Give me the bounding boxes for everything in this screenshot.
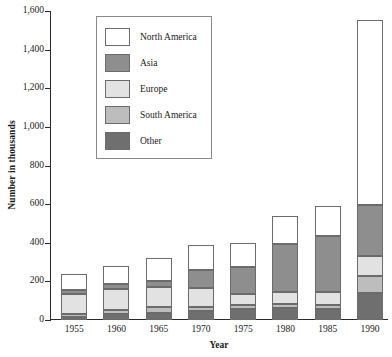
y-tick-mark [45, 320, 51, 321]
bar-segment [230, 309, 256, 320]
bar-segment [230, 305, 256, 310]
x-tick-label: 1990 [360, 324, 379, 334]
legend-swatch [105, 132, 130, 150]
bar-segment [315, 292, 341, 305]
bar-segment [315, 236, 341, 292]
y-tick-label: 400 [0, 238, 44, 248]
bar-segment [272, 244, 298, 292]
bar-segment [61, 290, 87, 294]
bar-segment [61, 294, 87, 314]
bar-segment [146, 281, 172, 287]
legend-label: South America [140, 110, 197, 120]
legend-label: Other [140, 136, 162, 146]
bar-segment [357, 20, 383, 205]
bar-segment [315, 305, 341, 310]
bar-segment [315, 309, 341, 320]
bar-segment [61, 314, 87, 317]
bar-segment [188, 288, 214, 307]
x-tick-label: 1975 [234, 324, 253, 334]
x-tick-label: 1985 [318, 324, 337, 334]
bar-segment [230, 267, 256, 294]
bar-segment [315, 206, 341, 236]
y-tick-label: 1,600 [0, 6, 44, 16]
x-axis-title: Year [50, 340, 388, 350]
legend-label: Europe [140, 84, 167, 94]
bar-segment [103, 284, 129, 289]
legend-item: Asia [97, 50, 211, 76]
bar-segment [146, 307, 172, 313]
bar-segment [188, 245, 214, 270]
bar-group [315, 206, 341, 320]
x-tick-label: 1955 [65, 324, 84, 334]
legend-item: North America [97, 24, 211, 50]
bar-group [272, 216, 298, 320]
y-tick-label: 800 [0, 161, 44, 171]
bar-group [357, 20, 383, 320]
legend-item: Other [97, 128, 211, 154]
x-tick-label: 1970 [191, 324, 210, 334]
x-tick-label: 1960 [107, 324, 126, 334]
y-tick-label: 1,000 [0, 122, 44, 132]
chart-legend: North AmericaAsiaEuropeSouth AmericaOthe… [96, 16, 212, 159]
bar-segment [146, 313, 172, 320]
legend-label: Asia [140, 58, 157, 68]
bar-segment [188, 270, 214, 288]
bar-segment [357, 256, 383, 275]
bar-group [103, 266, 129, 320]
bar-segment [272, 308, 298, 320]
legend-item: South America [97, 102, 211, 128]
bar-segment [272, 304, 298, 309]
legend-label: North America [140, 32, 197, 42]
bar-segment [146, 258, 172, 281]
bar-segment [103, 310, 129, 314]
y-tick-label: 1,400 [0, 45, 44, 55]
y-tick-label: 600 [0, 199, 44, 209]
y-tick-label: 200 [0, 277, 44, 287]
bar-segment [61, 274, 87, 290]
bar-segment [272, 292, 298, 304]
legend-swatch [105, 80, 130, 98]
bar-group [188, 245, 214, 320]
legend-swatch [105, 106, 130, 124]
x-tick-label: 1965 [149, 324, 168, 334]
bar-group [230, 243, 256, 320]
stacked-bar-chart: Number in thousands 02004006008001,0001,… [0, 0, 392, 357]
y-tick-label: 1,200 [0, 84, 44, 94]
legend-swatch [105, 54, 130, 72]
bar-segment [357, 276, 383, 293]
bar-segment [357, 205, 383, 256]
bar-segment [188, 307, 214, 311]
x-tick-label: 1980 [276, 324, 295, 334]
bar-segment [230, 294, 256, 305]
bar-segment [230, 243, 256, 267]
bar-group [146, 258, 172, 320]
bar-segment [103, 289, 129, 310]
legend-item: Europe [97, 76, 211, 102]
bar-segment [146, 287, 172, 307]
bar-segment [272, 216, 298, 244]
bar-segment [103, 266, 129, 284]
bar-group [61, 274, 87, 320]
bar-segment [357, 293, 383, 320]
legend-swatch [105, 28, 130, 46]
y-tick-label: 0 [0, 315, 44, 325]
bar-segment [61, 317, 87, 320]
bar-segment [103, 314, 129, 320]
bar-segment [188, 311, 214, 320]
